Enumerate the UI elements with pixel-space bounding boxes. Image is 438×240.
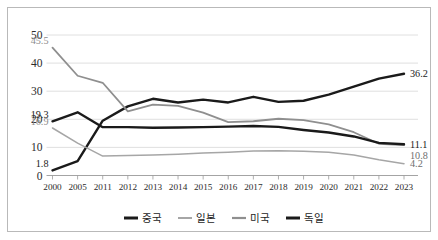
legend-label-일본: 일본	[196, 212, 216, 224]
end-value-label-중국: 36.2	[410, 68, 428, 79]
legend-label-중국: 중국	[142, 212, 162, 224]
x-axis-tick-labels: 2000200520112012201320142015201620172018…	[43, 182, 413, 192]
start-value-label-일본: 16.9	[31, 116, 49, 127]
start-value-label-중국: 1.8	[36, 158, 49, 169]
start-value-label-미국: 45.5	[31, 35, 49, 46]
end-value-label-일본: 4.2	[410, 158, 423, 169]
x-tick-label: 2000	[43, 182, 62, 192]
end-value-label-독일: 11.1	[410, 139, 427, 150]
x-tick-label: 2016	[219, 182, 238, 192]
data-series	[53, 48, 405, 171]
chart-legend: 중국일본미국독일	[124, 212, 324, 224]
x-tick-label: 2014	[169, 182, 188, 192]
x-tick-label: 2017	[244, 182, 263, 192]
x-tick-label: 2013	[144, 182, 163, 192]
line-chart: 01020304050 2000200520112012201320142015…	[0, 0, 438, 240]
legend-label-미국: 미국	[250, 212, 270, 224]
series-line-일본	[53, 128, 405, 164]
x-tick-label: 2015	[194, 182, 213, 192]
x-tick-label: 2012	[119, 182, 138, 192]
x-tick-label: 2011	[94, 182, 112, 192]
x-tick-label: 2023	[395, 182, 414, 192]
x-tick-label: 2005	[68, 182, 87, 192]
x-tick-label: 2022	[370, 182, 389, 192]
chart-figure: 01020304050 2000200520112012201320142015…	[0, 0, 438, 240]
series-line-독일	[53, 112, 405, 144]
gridlines	[47, 35, 419, 176]
end-value-labels: 36.211.110.84.2	[410, 68, 428, 168]
y-tick-label: 10	[31, 141, 43, 153]
y-tick-label: 0	[37, 170, 43, 182]
y-tick-label: 30	[31, 85, 43, 97]
y-tick-label: 40	[31, 57, 43, 69]
x-tick-label: 2020	[319, 182, 338, 192]
x-tick-label: 2021	[345, 182, 364, 192]
x-axis	[53, 176, 405, 180]
series-line-미국	[53, 48, 405, 146]
x-tick-label: 2018	[269, 182, 288, 192]
x-tick-label: 2019	[294, 182, 313, 192]
legend-label-독일: 독일	[304, 212, 324, 224]
